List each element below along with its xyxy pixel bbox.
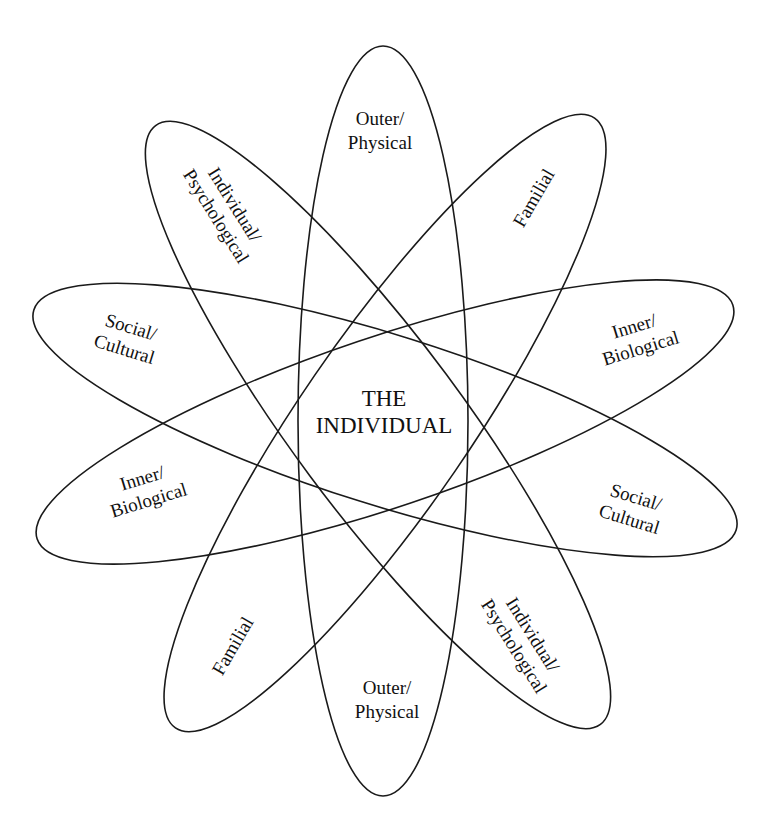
label-familial-bottom: Familial <box>208 613 258 678</box>
label-line2: Physical <box>355 701 419 722</box>
label-social-cultural-left: Social/ Cultural <box>91 308 163 368</box>
label-inner-biological-left: Inner/ Biological <box>101 456 190 521</box>
dimensions-of-individual-diagram: THE INDIVIDUAL Outer/ Physical Outer/ Ph… <box>0 0 767 823</box>
label-outer-physical-bottom: Outer/ Physical <box>355 677 419 722</box>
label-line2: Physical <box>348 132 412 153</box>
center-label-line2: INDIVIDUAL <box>316 413 453 438</box>
label-outer-physical-top: Outer/ Physical <box>348 108 412 153</box>
label-line1: Familial <box>208 613 258 678</box>
label-inner-biological-right: Inner/ Biological <box>593 304 682 369</box>
label-individual-psychological-bottom: Individual/ Psychological <box>477 584 570 697</box>
label-line1: Outer/ <box>363 677 412 698</box>
label-social-cultural-right: Social/ Cultural <box>596 478 668 538</box>
center-label: THE INDIVIDUAL <box>316 386 453 438</box>
label-line1: Familial <box>509 165 559 230</box>
label-line1: Outer/ <box>356 108 405 129</box>
label-individual-psychological-top: Individual/ Psychological <box>179 154 272 267</box>
center-label-line1: THE <box>362 386 407 411</box>
label-familial-top: Familial <box>509 165 559 230</box>
